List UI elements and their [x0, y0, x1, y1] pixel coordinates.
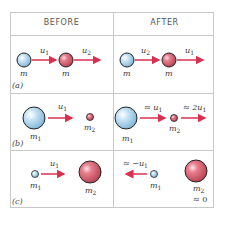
row-tag-a: (a): [12, 81, 23, 90]
mass-label: m2: [85, 187, 96, 196]
pink-ball-icon: [185, 160, 207, 182]
velocity-label: u1: [58, 103, 67, 112]
velocity-label: u1: [40, 47, 49, 56]
pink-ball-icon: [87, 114, 94, 121]
mass-label: m1: [122, 135, 133, 144]
velocity-label: ≈ 2u1: [183, 104, 206, 113]
blue-ball-icon: [151, 171, 158, 178]
velocity-label: ≈ u1: [144, 104, 162, 113]
row-c-before: [32, 161, 102, 183]
blue-ball-icon: [115, 107, 137, 129]
velocity-label: u1: [185, 47, 194, 56]
velocity-label: ≈ −u1: [123, 160, 148, 169]
velocity-label: u2: [82, 47, 91, 56]
mass-label: m1: [30, 133, 41, 142]
mass-label: m1: [150, 182, 161, 191]
pink-ball-icon: [162, 53, 176, 67]
row-tag-c: (c): [12, 197, 23, 206]
blue-ball-icon: [23, 107, 45, 129]
mass-label: m2: [84, 124, 95, 133]
mass-label: m2: [193, 185, 204, 194]
approx-zero-note: ≈ 0: [193, 196, 207, 204]
mass-label: m: [123, 70, 131, 78]
mass-label: m: [165, 70, 173, 78]
mass-label: m2: [169, 125, 180, 134]
pink-ball-icon: [171, 115, 178, 122]
blue-ball-icon: [17, 53, 31, 67]
mass-label: m1: [30, 182, 41, 191]
pink-ball-icon: [59, 53, 73, 67]
row-tag-b: (b): [12, 139, 23, 148]
mass-label: m: [62, 70, 70, 78]
velocity-label: u1: [50, 160, 59, 169]
blue-ball-icon: [32, 171, 39, 178]
blue-ball-icon: [120, 53, 134, 67]
velocity-label: u2: [141, 47, 150, 56]
pink-ball-icon: [79, 161, 101, 183]
mass-label: m: [20, 70, 28, 78]
